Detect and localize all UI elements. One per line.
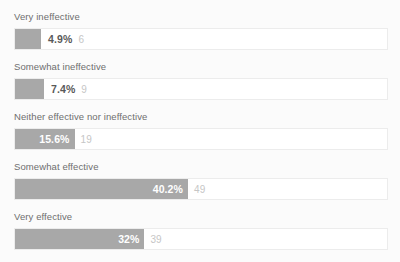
result-row: Very effective 32% 32% 39: [14, 210, 388, 250]
bar-track: 4.9% 4.9% 6: [14, 28, 388, 50]
count-value: 6: [72, 29, 84, 49]
percent-value-inside: 40.2%: [153, 183, 188, 195]
bar-track: 7.4% 7.4% 9: [14, 78, 388, 100]
survey-results-chart: Very ineffective 4.9% 4.9% 6 Somewhat in…: [0, 0, 400, 250]
result-row: Somewhat ineffective 7.4% 7.4% 9: [14, 60, 388, 100]
bar-fill: 4.9%: [15, 29, 41, 49]
bar-track: 15.6% 15.6% 19: [14, 128, 388, 150]
count-value: 49: [188, 179, 205, 199]
count-value: 9: [75, 79, 87, 99]
result-row: Very ineffective 4.9% 4.9% 6: [14, 10, 388, 50]
count-value: 19: [75, 129, 92, 149]
bar-fill: 15.6%: [15, 129, 75, 149]
percent-value-inside: 15.6%: [39, 133, 74, 145]
count-value: 39: [144, 229, 161, 249]
bar-track: 40.2% 40.2% 49: [14, 178, 388, 200]
bar-fill: 7.4%: [15, 79, 44, 99]
percent-value: 4.9%: [41, 29, 72, 49]
percent-value: 7.4%: [44, 79, 75, 99]
result-row-label: Somewhat ineffective: [14, 60, 388, 73]
result-row: Somewhat effective 40.2% 40.2% 49: [14, 160, 388, 200]
result-row-label: Neither effective nor ineffective: [14, 110, 388, 123]
result-row: Neither effective nor ineffective 15.6% …: [14, 110, 388, 150]
percent-value-inside: 32%: [118, 233, 144, 245]
result-row-label: Very ineffective: [14, 10, 388, 23]
result-row-label: Somewhat effective: [14, 160, 388, 173]
bar-fill: 40.2%: [15, 179, 188, 199]
result-row-label: Very effective: [14, 210, 388, 223]
bar-track: 32% 32% 39: [14, 228, 388, 250]
bar-fill: 32%: [15, 229, 144, 249]
